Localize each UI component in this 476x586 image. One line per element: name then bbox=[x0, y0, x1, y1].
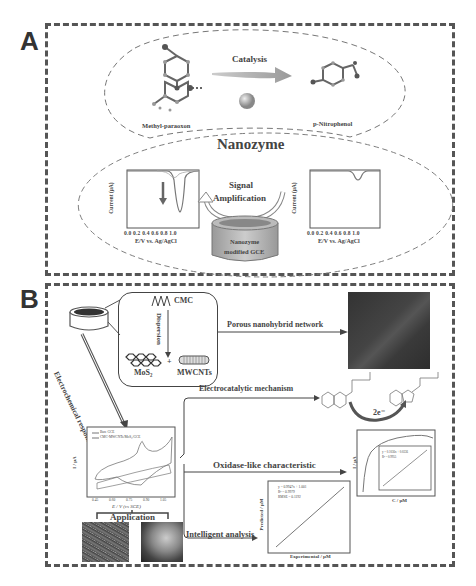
cv-legend-2: CMC-MWCNTs/MoS₂/GCE bbox=[100, 435, 140, 439]
mwcnts-label: MWCNTs bbox=[177, 368, 212, 377]
dispersion-arrow bbox=[165, 310, 171, 358]
kinetics-inset-r2: R² = 0.9955 bbox=[382, 455, 396, 459]
kinetics-plot bbox=[357, 430, 435, 496]
xtick: 0.75 bbox=[126, 498, 132, 502]
application-image-1 bbox=[82, 522, 129, 562]
prediction-r2: R² = 0.9979 bbox=[278, 490, 295, 494]
cv-legend-1: Bare GCE bbox=[100, 430, 114, 434]
cmc-polymer-icon bbox=[152, 296, 172, 306]
mwcnt-tube-icon bbox=[178, 355, 210, 365]
cmc-label: CMC bbox=[174, 296, 193, 305]
mos2-label: MoS₂ bbox=[134, 368, 152, 377]
prediction-rmse: RMSE = 0.1192 bbox=[278, 495, 301, 499]
xtick: 0.90 bbox=[143, 498, 149, 502]
oxidase-arrow bbox=[182, 468, 347, 478]
cv-ylabel: I / μA bbox=[72, 456, 77, 468]
application-image-2 bbox=[141, 522, 183, 562]
kinetics-xlabel: C / μM bbox=[392, 498, 407, 503]
prediction-ylabel: Predicted / μM bbox=[259, 499, 264, 531]
electrochemical-response-arrow bbox=[80, 334, 130, 430]
xtick: 0.45 bbox=[92, 498, 98, 502]
application-label: Application bbox=[110, 512, 155, 522]
prediction-eq: y = 0.9947x + 1.001 bbox=[278, 485, 306, 489]
two-electron-label: 2e⁻ bbox=[373, 408, 385, 417]
xtick: 0.60 bbox=[109, 498, 115, 502]
kinetics-ylabel: I / μA bbox=[352, 456, 357, 468]
sem-image-porous-network bbox=[348, 292, 430, 369]
electrocatalytic-label: Electrocatalytic mechanism bbox=[199, 384, 293, 393]
xtick: 1.05 bbox=[160, 498, 166, 502]
prediction-xlabel: Experimental / μM bbox=[290, 554, 331, 559]
plus-sign: + bbox=[167, 357, 172, 366]
porous-arrow bbox=[218, 327, 348, 337]
cv-xlabel: E / V (vs SCE) bbox=[112, 504, 141, 509]
intelligent-analysis-label: Intelligent analysis bbox=[186, 529, 254, 539]
kinetics-inset-eq: y = 0.1036x + 0.0336 bbox=[382, 450, 408, 454]
dispersion-label: Dispersion bbox=[155, 313, 163, 345]
cv-xticks: 0.45 0.60 0.75 0.90 1.05 bbox=[92, 498, 166, 502]
